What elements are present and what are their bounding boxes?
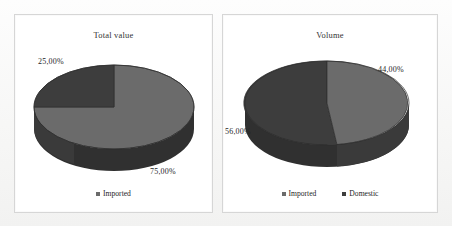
legend-label-domestic: Domestic <box>349 189 378 198</box>
chart-panel-volume: Volume 44,00% 56,00% <box>222 14 438 213</box>
legend-item-imported[interactable]: Imported <box>96 189 131 198</box>
pie-chart-volume <box>223 15 437 212</box>
pie-label-44-percent: 44,00% <box>378 65 404 74</box>
pie-slice-domestic-total-value <box>34 65 114 107</box>
pie-label-25-percent: 25,00% <box>38 57 64 66</box>
legend-total-value: Imported <box>15 189 212 198</box>
legend-item-domestic[interactable]: Domestic <box>342 189 378 198</box>
pie-label-56-percent: 56,00% <box>225 127 251 136</box>
legend-swatch-icon-domestic <box>342 192 346 196</box>
legend-volume: Imported Domestic <box>223 189 437 198</box>
legend-label-imported: Imported <box>103 189 131 198</box>
pie-graphic-volume <box>237 43 419 173</box>
legend-swatch-icon-imported <box>96 192 100 196</box>
legend-item-imported[interactable]: Imported <box>282 189 317 198</box>
legend-label-imported: Imported <box>289 189 317 198</box>
legend-swatch-icon-imported <box>282 192 286 196</box>
pie-chart-total-value <box>15 15 212 212</box>
pie-label-75-percent: 75,00% <box>150 167 176 176</box>
chart-panel-total-value: Total value 25,00% 75,00% <box>14 14 213 213</box>
